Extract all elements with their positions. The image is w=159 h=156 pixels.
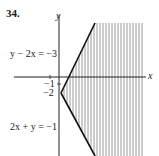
y-axis-label: y bbox=[56, 11, 60, 21]
y-tick-label-minus-2: −2 bbox=[43, 88, 54, 98]
shaded-region bbox=[61, 20, 145, 156]
equation-upper: y − 2x = −3 bbox=[10, 49, 57, 59]
problem-number: 34. bbox=[6, 8, 20, 19]
x-axis-label: x bbox=[148, 71, 152, 81]
graph-svg bbox=[0, 0, 159, 156]
graph-figure: 34. y x y − 2x = −3 −1 −2 2x + y = −1 bbox=[0, 0, 159, 156]
equation-lower: 2x + y = −1 bbox=[10, 122, 57, 132]
